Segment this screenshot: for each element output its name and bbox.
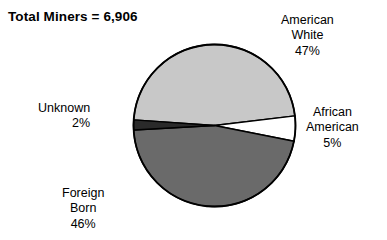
- slice-label-foreign-born-line2: Born: [62, 201, 104, 216]
- slice-label-african-american-percent: 5%: [306, 136, 359, 151]
- slice-label-african-american-line1: African: [306, 105, 359, 120]
- pie-slices-group: [134, 45, 296, 207]
- slice-label-american-white-line1: American: [281, 13, 334, 28]
- slice-label-foreign-born: Foreign Born 46%: [62, 186, 104, 232]
- pie-slice-american-white: [134, 45, 295, 126]
- pie-slice-foreign-born: [134, 126, 294, 207]
- slice-label-american-white-line2: White: [281, 28, 334, 43]
- slice-label-foreign-born-line1: Foreign: [62, 186, 104, 201]
- slice-label-unknown-line1: Unknown: [38, 101, 90, 116]
- slice-label-african-american: African American 5%: [306, 105, 359, 151]
- slice-label-american-white-percent: 47%: [281, 44, 334, 59]
- slice-label-unknown-percent: 2%: [38, 116, 90, 131]
- pie-chart-figure: Total Miners = 6,906 American White 47% …: [0, 0, 387, 240]
- slice-label-american-white: American White 47%: [281, 13, 334, 59]
- slice-label-unknown: Unknown 2%: [38, 101, 90, 132]
- slice-label-african-american-line2: American: [306, 120, 359, 135]
- slice-label-foreign-born-percent: 46%: [62, 217, 104, 232]
